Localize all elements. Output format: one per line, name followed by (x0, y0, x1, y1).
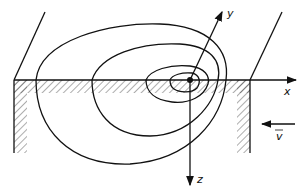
z-axis-label: z (197, 174, 203, 185)
heat-source-point (187, 77, 193, 83)
diagram-canvas (0, 0, 307, 194)
diagram: x y z v (0, 0, 307, 194)
velocity-label: v (276, 131, 283, 142)
y-axis-label: y (227, 8, 234, 19)
x-axis-label: x (284, 86, 291, 97)
